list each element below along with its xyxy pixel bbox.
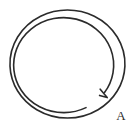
label-a: A bbox=[114, 108, 128, 124]
outer-ring bbox=[10, 10, 125, 118]
split-ring-figure: A bbox=[0, 0, 138, 133]
inner-spiral bbox=[14, 18, 114, 113]
